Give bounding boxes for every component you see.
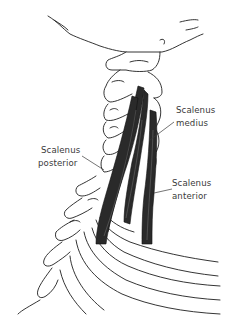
label-line-1: Scalenus <box>38 144 80 157</box>
thoracic-spine <box>18 176 100 314</box>
cervical-vertebra-c1-c2 <box>104 52 162 102</box>
label-line-2: medius <box>176 117 215 130</box>
label-line-2: posterior <box>38 157 80 170</box>
leader-line-anterior <box>154 189 172 193</box>
scalene-muscles-illustration <box>0 0 232 316</box>
label-scalenus-anterior: Scalenus anterior <box>172 177 211 202</box>
label-line-1: Scalenus <box>176 104 215 117</box>
label-scalenus-medius: Scalenus medius <box>176 104 215 129</box>
skull-base <box>48 16 203 52</box>
label-scalenus-posterior: Scalenus posterior <box>38 144 80 169</box>
label-line-1: Scalenus <box>172 177 211 190</box>
ribs <box>60 214 220 314</box>
label-line-2: anterior <box>172 190 211 203</box>
